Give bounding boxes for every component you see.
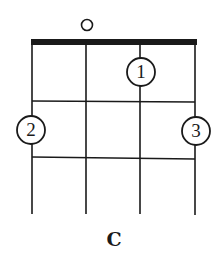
finger-label-3: 3 — [182, 117, 210, 145]
fret-line-2 — [32, 157, 195, 159]
chord-diagram: 1 2 3 C — [0, 0, 220, 265]
nut — [31, 39, 197, 45]
fret-line-1 — [32, 101, 195, 102]
finger-label-2: 2 — [17, 116, 45, 144]
finger-label-1: 1 — [127, 58, 155, 86]
chord-name: C — [0, 228, 220, 250]
open-string-marker-icon — [82, 20, 93, 31]
